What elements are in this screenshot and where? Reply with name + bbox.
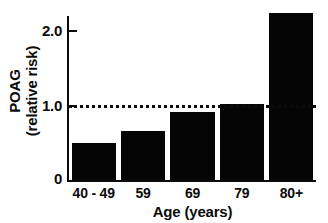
y-tick-label-1: 1.0 — [34, 97, 62, 114]
bar-59 — [121, 131, 165, 180]
x-tick-label-59: 59 — [118, 185, 167, 201]
bar-40-49 — [72, 143, 116, 180]
reference-line-1 — [69, 105, 316, 108]
x-axis-tick-labels: 40 - 49 59 69 79 80+ — [69, 185, 316, 201]
bar-69 — [170, 112, 214, 180]
x-tick-label-69: 69 — [168, 185, 217, 201]
x-axis-line — [67, 180, 316, 182]
y-axis-ticks: 2.0 1.0 0 — [30, 0, 62, 223]
y-tick-label-0: 0 — [34, 170, 62, 187]
x-axis-title: Age (years) — [69, 203, 316, 220]
poag-relative-risk-bar-chart: POAG (relative risk) 2.0 1.0 0 40 - 49 5… — [0, 0, 328, 223]
x-tick-label-80plus: 80+ — [267, 185, 316, 201]
x-tick-label-40-49: 40 - 49 — [69, 185, 118, 201]
bar-80plus — [269, 13, 313, 180]
x-tick-label-79: 79 — [217, 185, 266, 201]
y-axis-title-line1: POAG — [6, 46, 23, 136]
plot-area — [69, 0, 316, 180]
y-tick-label-2: 2.0 — [34, 22, 62, 39]
bar-79 — [220, 104, 264, 181]
